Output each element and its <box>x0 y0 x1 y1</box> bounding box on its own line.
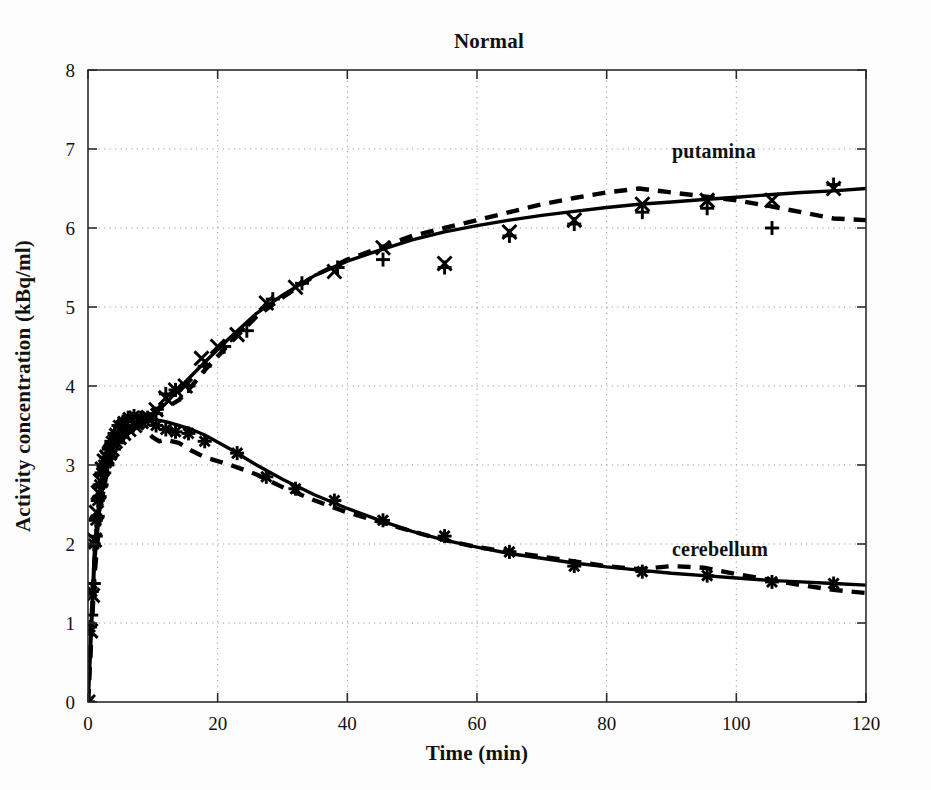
chart-title: Normal <box>454 29 524 53</box>
y-tick-label: 1 <box>66 613 76 634</box>
x-tick-label: 0 <box>83 713 93 734</box>
annotation-putamina: putamina <box>672 140 756 163</box>
y-tick-label: 5 <box>66 297 76 318</box>
figure-container: 020406080100120012345678 Normal Time (mi… <box>0 0 931 790</box>
y-axis-title: Activity concentration (kBq/ml) <box>11 240 35 532</box>
x-tick-label: 120 <box>852 713 881 734</box>
chart-canvas: 020406080100120012345678 Normal Time (mi… <box>0 0 931 790</box>
y-tick-label: 4 <box>66 376 76 397</box>
y-tick-label: 6 <box>66 218 76 239</box>
x-tick-label: 100 <box>722 713 751 734</box>
y-tick-label: 7 <box>66 139 76 160</box>
y-tick-label: 0 <box>66 692 76 713</box>
x-tick-label: 20 <box>208 713 227 734</box>
x-tick-label: 80 <box>597 713 616 734</box>
annotation-cerebellum: cerebellum <box>672 538 768 560</box>
y-tick-label: 2 <box>66 534 76 555</box>
x-tick-label: 60 <box>468 713 487 734</box>
x-axis-title: Time (min) <box>426 741 529 765</box>
x-tick-label: 40 <box>338 713 357 734</box>
y-tick-label: 8 <box>66 60 76 81</box>
y-tick-label: 3 <box>66 455 76 476</box>
